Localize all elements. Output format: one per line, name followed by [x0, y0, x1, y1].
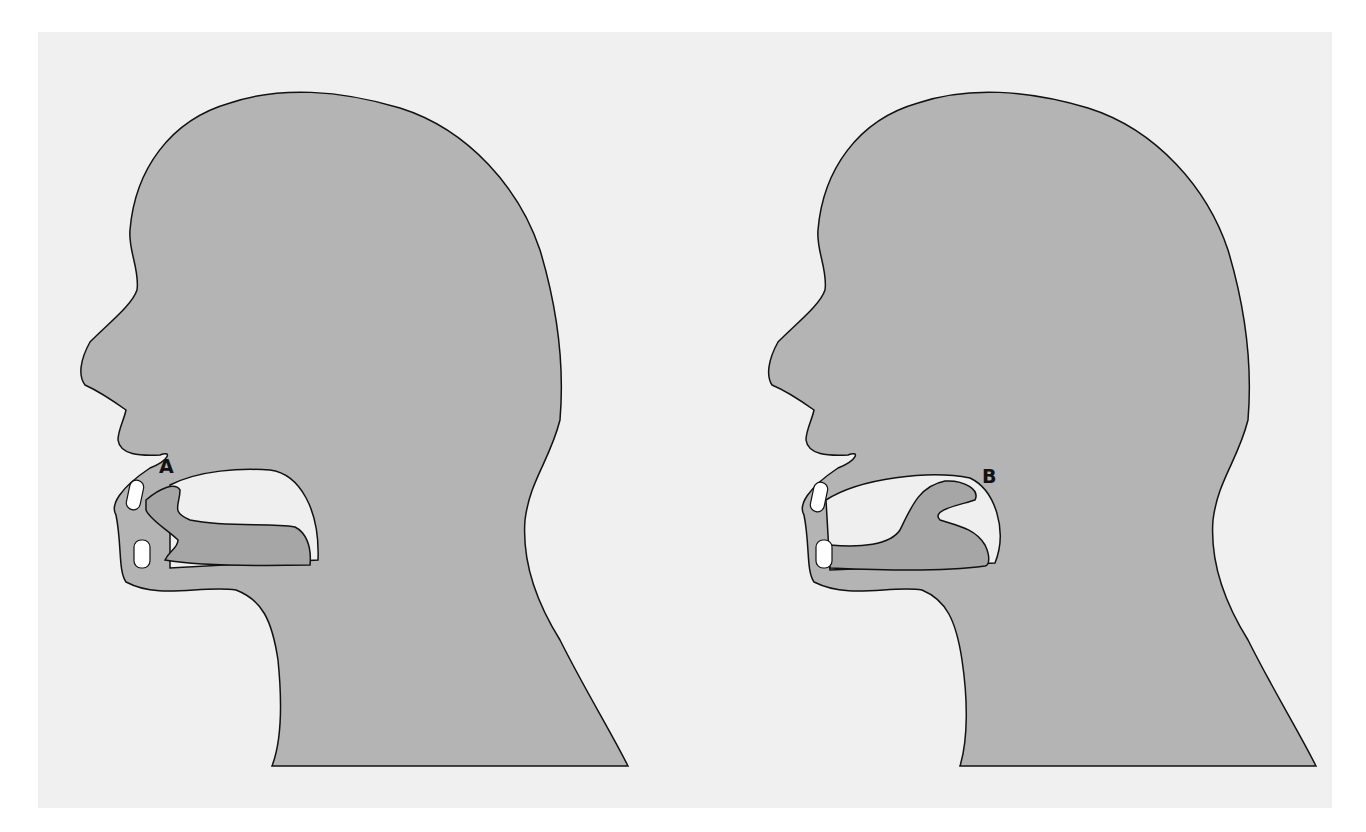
head-left	[81, 92, 628, 766]
diagram-canvas	[0, 0, 1366, 832]
label-a: A	[159, 455, 174, 477]
label-b: B	[982, 465, 996, 487]
lower-tooth-right	[816, 540, 832, 568]
lower-tooth-left	[134, 540, 150, 568]
head-right	[769, 92, 1316, 766]
